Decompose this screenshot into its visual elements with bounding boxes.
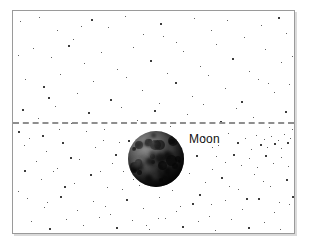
star-dot <box>115 154 117 156</box>
star-dot <box>167 73 168 74</box>
star-dot <box>66 219 67 220</box>
star-dot <box>22 109 24 111</box>
star-dot <box>196 155 198 157</box>
star-dot <box>27 198 28 199</box>
star-dot <box>110 99 112 101</box>
star-dot <box>99 217 100 218</box>
star-dot <box>93 81 94 82</box>
star-dot <box>281 157 282 158</box>
star-dot <box>257 167 258 168</box>
star-dot <box>18 191 19 192</box>
star-dot <box>172 190 173 191</box>
star-dot <box>105 206 106 207</box>
star-dot <box>33 48 34 49</box>
star-dot <box>103 140 104 141</box>
star-dot <box>143 208 144 209</box>
star-dot <box>267 147 268 148</box>
star-dot <box>249 158 250 159</box>
star-dot <box>44 207 45 208</box>
star-dot <box>43 86 45 88</box>
star-dot <box>20 21 21 22</box>
star-dot <box>108 27 109 28</box>
star-dot <box>47 202 48 203</box>
star-dot <box>278 17 280 19</box>
star-dot <box>91 19 93 21</box>
star-dot <box>211 30 212 31</box>
star-dot <box>60 196 62 198</box>
star-dot <box>107 187 108 188</box>
star-dot <box>253 117 254 118</box>
moon-sphere <box>128 131 184 187</box>
star-dot <box>176 211 177 212</box>
star-dot <box>265 155 267 157</box>
star-dot <box>42 135 44 137</box>
star-dot <box>100 171 101 172</box>
star-dot <box>60 74 61 75</box>
star-dot <box>149 229 150 230</box>
star-dot <box>121 107 122 108</box>
star-dot <box>203 104 204 105</box>
moon-shading <box>128 131 184 187</box>
star-dot <box>192 203 194 205</box>
star-dot <box>215 230 216 231</box>
star-dot <box>175 82 177 84</box>
star-dot <box>200 66 201 67</box>
star-dot <box>288 166 289 167</box>
star-dot <box>251 149 252 150</box>
star-dot <box>125 16 126 17</box>
star-dot <box>176 42 177 43</box>
star-dot <box>265 49 266 50</box>
star-dot <box>274 143 276 145</box>
star-dot <box>73 39 74 40</box>
star-dot <box>84 63 85 64</box>
star-dot <box>229 186 230 187</box>
star-dot <box>232 58 234 60</box>
star-dot <box>258 198 260 200</box>
star-dot <box>238 189 239 190</box>
star-dot <box>225 88 226 89</box>
star-dot <box>18 55 19 56</box>
star-dot <box>122 189 123 190</box>
star-dot <box>57 168 58 169</box>
star-dot <box>126 199 128 201</box>
star-dot <box>270 186 271 187</box>
star-dot <box>225 200 226 201</box>
star-dot <box>268 83 269 84</box>
star-dot <box>216 156 217 157</box>
star-dot <box>241 101 243 103</box>
star-dot <box>39 17 40 18</box>
star-dot <box>260 144 262 146</box>
star-dot <box>241 165 242 166</box>
star-dot <box>154 110 156 112</box>
star-dot <box>110 214 111 215</box>
star-dot <box>160 23 162 25</box>
star-dot <box>269 127 270 128</box>
star-dot <box>180 206 181 207</box>
star-dot <box>256 135 257 136</box>
star-dot <box>274 92 275 93</box>
star-dot <box>46 151 47 152</box>
star-dot <box>286 179 288 181</box>
star-dot <box>221 177 223 179</box>
star-dot <box>242 209 243 210</box>
star-dot <box>49 228 51 230</box>
ecliptic-dashed-line <box>13 122 294 124</box>
star-dot <box>68 45 70 47</box>
star-dot <box>286 33 287 34</box>
star-dot <box>278 140 279 141</box>
star-dot <box>48 97 50 99</box>
star-dot <box>216 44 217 45</box>
star-dot <box>95 147 96 148</box>
star-dot <box>258 79 259 80</box>
moon-object <box>128 131 184 187</box>
star-dot <box>194 18 195 19</box>
star-dot <box>29 138 30 139</box>
star-dot <box>289 204 290 205</box>
star-dot <box>248 227 250 229</box>
star-dot <box>112 163 113 164</box>
star-dot <box>64 186 66 188</box>
star-dot <box>53 171 54 172</box>
star-dot <box>159 103 160 104</box>
star-dot <box>261 25 262 26</box>
star-dot <box>81 26 82 27</box>
